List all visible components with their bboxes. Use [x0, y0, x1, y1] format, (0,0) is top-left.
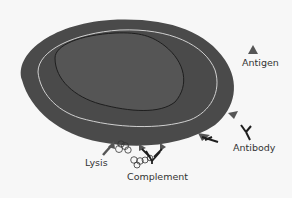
complement-label: Complement [127, 172, 188, 182]
antibody-legend-icon [241, 125, 251, 140]
diagram-canvas: Antigen Antibody Lysis Complement [0, 0, 292, 198]
antigen-icon [228, 111, 238, 119]
cell-illustration [0, 0, 292, 198]
lysis-label: Lysis [85, 158, 108, 168]
antigen-legend-icon [248, 45, 258, 54]
antibody-label: Antibody [233, 143, 275, 153]
antigen-label: Antigen [242, 58, 279, 68]
bound-antibody-icon [202, 137, 218, 142]
